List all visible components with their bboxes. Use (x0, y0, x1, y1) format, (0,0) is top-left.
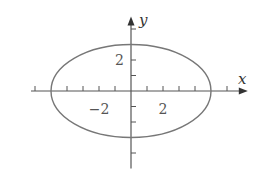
x-tick-label: −2 (89, 101, 110, 117)
labels: x y −222 (89, 11, 247, 117)
x-axis-arrow-icon (239, 88, 248, 95)
y-axis-arrow-icon (128, 17, 135, 26)
y-axis-label: y (138, 11, 148, 29)
axes (31, 17, 248, 169)
ellipse-graph: x y −222 (0, 0, 259, 172)
x-axis-label: x (238, 70, 247, 88)
x-tick-label: 2 (159, 101, 168, 117)
y-tick-label: 2 (115, 52, 124, 68)
